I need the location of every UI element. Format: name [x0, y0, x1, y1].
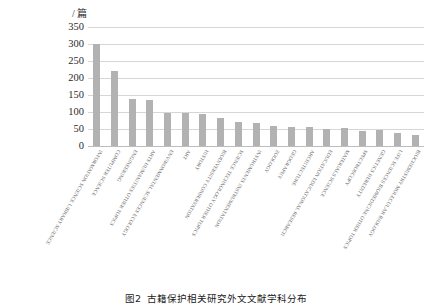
gridline	[88, 78, 424, 79]
bar	[270, 126, 277, 146]
bar	[146, 100, 153, 146]
bar	[288, 127, 295, 146]
gridline	[88, 112, 424, 113]
bar	[412, 135, 419, 146]
figure-caption: 图2古籍保护相关研究外文文献学科分布	[0, 291, 432, 305]
bar	[129, 99, 136, 146]
y-tick-label: 100	[52, 107, 84, 117]
bar	[253, 123, 260, 146]
y-tick-label: 50	[52, 124, 84, 134]
y-axis-tick-labels: 050100150200250300350	[52, 0, 84, 308]
bar	[235, 122, 242, 146]
bar	[323, 129, 330, 146]
y-tick-label: 300	[52, 39, 84, 49]
bar	[182, 113, 189, 146]
y-tick-label: 150	[52, 90, 84, 100]
y-tick-label: 0	[52, 141, 84, 151]
gridline	[88, 27, 424, 28]
bar	[341, 128, 348, 146]
bar	[394, 133, 401, 146]
bar	[93, 44, 100, 146]
bar	[111, 71, 118, 146]
bar	[306, 127, 313, 146]
gridline	[88, 44, 424, 45]
x-axis-line	[88, 146, 424, 147]
y-tick-label: 200	[52, 73, 84, 83]
y-tick-label: 250	[52, 56, 84, 66]
bar	[217, 118, 224, 146]
gridline	[88, 61, 424, 62]
bar	[199, 114, 206, 146]
caption-number: 图2	[125, 293, 141, 304]
bar	[376, 130, 383, 146]
plot-area	[88, 27, 424, 146]
y-tick-label: 350	[52, 22, 84, 32]
gridline	[88, 95, 424, 96]
bar	[359, 131, 366, 146]
figure-container: / 篇 050100150200250300350 INFORMATION SC…	[0, 0, 432, 308]
caption-text: 古籍保护相关研究外文文献学科分布	[147, 293, 307, 304]
bar	[164, 113, 171, 146]
